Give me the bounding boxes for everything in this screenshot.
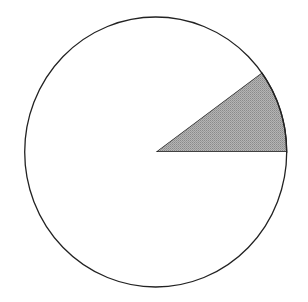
pie-slice-1 (25, 17, 287, 287)
pie-chart (0, 0, 308, 302)
pie-slices (25, 17, 287, 287)
